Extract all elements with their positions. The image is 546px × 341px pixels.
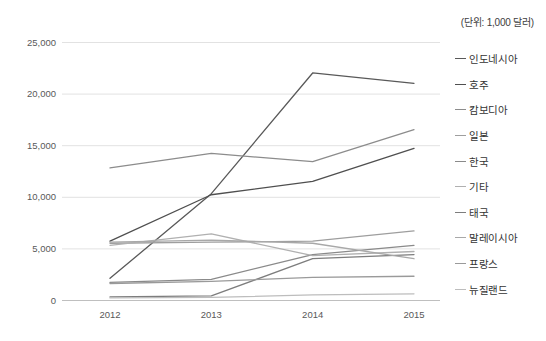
y-axis-tick-labels: 05,00010,00015,00020,00025,000 [27, 37, 56, 306]
y-tick-label: 25,000 [27, 37, 56, 48]
legend-item-label: 태국 [469, 205, 488, 220]
legend-swatch-icon [455, 109, 466, 110]
y-tick-label: 5,000 [32, 243, 56, 254]
legend-swatch-icon [455, 135, 466, 136]
legend-item-label: 뉴질랜드 [469, 282, 508, 297]
series-line [110, 73, 414, 278]
x-tick-label: 2012 [99, 309, 120, 320]
legend-item[interactable]: 일본 [455, 123, 546, 149]
legend-item-label: 호주 [469, 77, 488, 92]
legend-item-label: 말레이시아 [469, 230, 518, 245]
legend-item-label: 인도네시아 [469, 51, 518, 66]
y-tick-label: 10,000 [27, 191, 56, 202]
y-tick-label: 15,000 [27, 140, 56, 151]
legend-swatch-icon [455, 212, 466, 213]
x-axis-tick-labels: 2012201320142015 [99, 309, 424, 320]
x-tick-label: 2014 [302, 309, 323, 320]
legend-swatch-icon [455, 237, 466, 238]
y-tick-label: 20,000 [27, 88, 56, 99]
legend-item-label: 기타 [469, 179, 488, 194]
legend-item[interactable]: 프랑스 [455, 251, 546, 277]
legend-swatch-icon [455, 289, 466, 290]
series-line [110, 148, 414, 241]
legend-item[interactable]: 태국 [455, 200, 546, 226]
legend-item-label: 한국 [469, 154, 488, 169]
legend-swatch-icon [455, 263, 466, 264]
legend-item[interactable]: 캄보디아 [455, 97, 546, 123]
legend-item-label: 캄보디아 [469, 102, 508, 117]
legend-item[interactable]: 기타 [455, 174, 546, 200]
legend-item[interactable]: 뉴질랜드 [455, 276, 546, 302]
x-tick-label: 2015 [403, 309, 424, 320]
legend-swatch-icon [455, 84, 466, 85]
legend-item-label: 일본 [469, 128, 488, 143]
legend-item[interactable]: 호주 [455, 72, 546, 98]
series-line [110, 255, 414, 297]
x-tick-label: 2013 [201, 309, 222, 320]
series-lines [110, 73, 414, 298]
legend-item[interactable]: 인도네시아 [455, 46, 546, 72]
legend-item[interactable]: 말레이시아 [455, 225, 546, 251]
legend-swatch-icon [455, 186, 466, 187]
y-tick-label: 0 [51, 295, 56, 306]
line-chart: (단위: 1,000 달러) 05,00010,00015,00020,0002… [0, 0, 546, 341]
legend-item[interactable]: 한국 [455, 148, 546, 174]
legend-swatch-icon [455, 161, 466, 162]
legend-item-label: 프랑스 [469, 256, 498, 271]
legend: 인도네시아호주캄보디아일본한국기타태국말레이시아프랑스뉴질랜드 [455, 46, 546, 302]
series-line [110, 130, 414, 168]
legend-swatch-icon [455, 58, 466, 59]
